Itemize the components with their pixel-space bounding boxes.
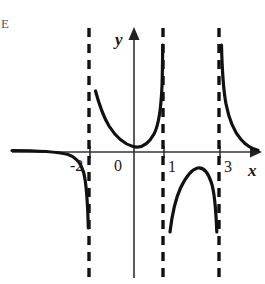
x-axis-label: x [247, 161, 257, 180]
tick-label-one: 1 [168, 158, 176, 175]
figure-corner-mark: E [1, 16, 9, 31]
tick-label-neg-two: -2 [70, 157, 83, 174]
tick-label-zero: 0 [114, 157, 122, 174]
graph-figure: -2 0 1 3 y x E [0, 0, 265, 284]
plot-background [0, 0, 265, 284]
function-graph-svg: -2 0 1 3 y x E [0, 0, 265, 284]
y-axis-label: y [113, 30, 123, 49]
tick-label-three: 3 [224, 158, 232, 175]
